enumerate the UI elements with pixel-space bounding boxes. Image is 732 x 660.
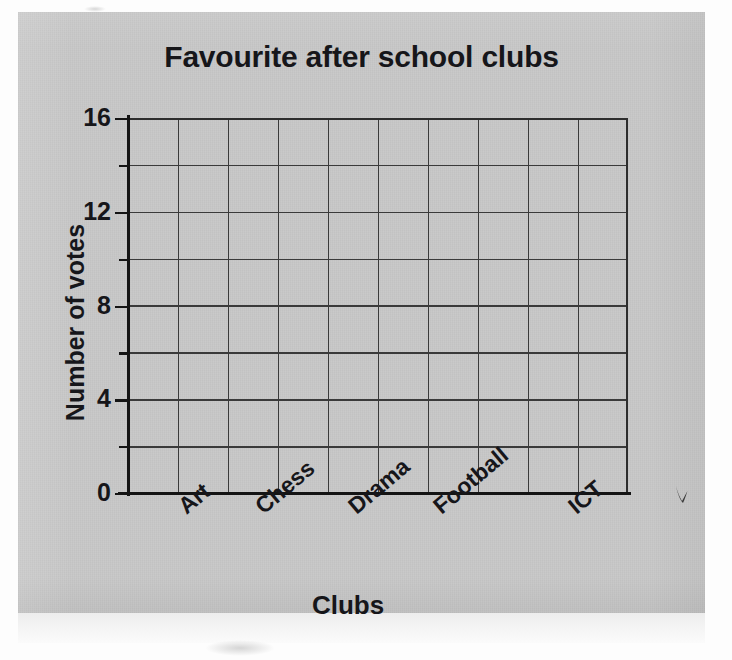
y-tick-label: 4	[97, 384, 111, 413]
y-tick-minor	[119, 165, 128, 167]
y-tick-label: 12	[83, 197, 111, 226]
grid-right-edge	[626, 118, 628, 493]
y-tick-label: 0	[97, 478, 111, 507]
y-tick-major	[115, 306, 128, 308]
y-tick-major	[115, 399, 128, 401]
chart-paper-panel: Favourite after school clubs Number of v…	[18, 12, 705, 613]
y-axis-title: Number of votes	[56, 192, 96, 452]
y-tick-label: 8	[97, 290, 111, 319]
scanned-page: Favourite after school clubs Number of v…	[0, 0, 732, 660]
y-axis-title-label: Number of votes	[62, 223, 91, 420]
y-tick-minor	[119, 352, 128, 354]
y-tick-minor	[119, 259, 128, 261]
stray-ink-mark-icon	[673, 482, 691, 506]
y-tick-minor	[119, 446, 128, 448]
y-tick-major	[115, 212, 128, 214]
y-tick-label: 16	[83, 103, 111, 132]
y-tick-major	[115, 493, 128, 495]
plot-area: 0 4 8 12 16	[128, 118, 628, 493]
scan-smudge-mark	[205, 640, 275, 656]
grid-top-edge	[128, 118, 628, 120]
y-tick-major	[115, 118, 128, 120]
chart-title: Favourite after school clubs	[18, 40, 705, 74]
grid-lines	[128, 118, 628, 493]
x-axis-title: Clubs	[18, 590, 678, 621]
